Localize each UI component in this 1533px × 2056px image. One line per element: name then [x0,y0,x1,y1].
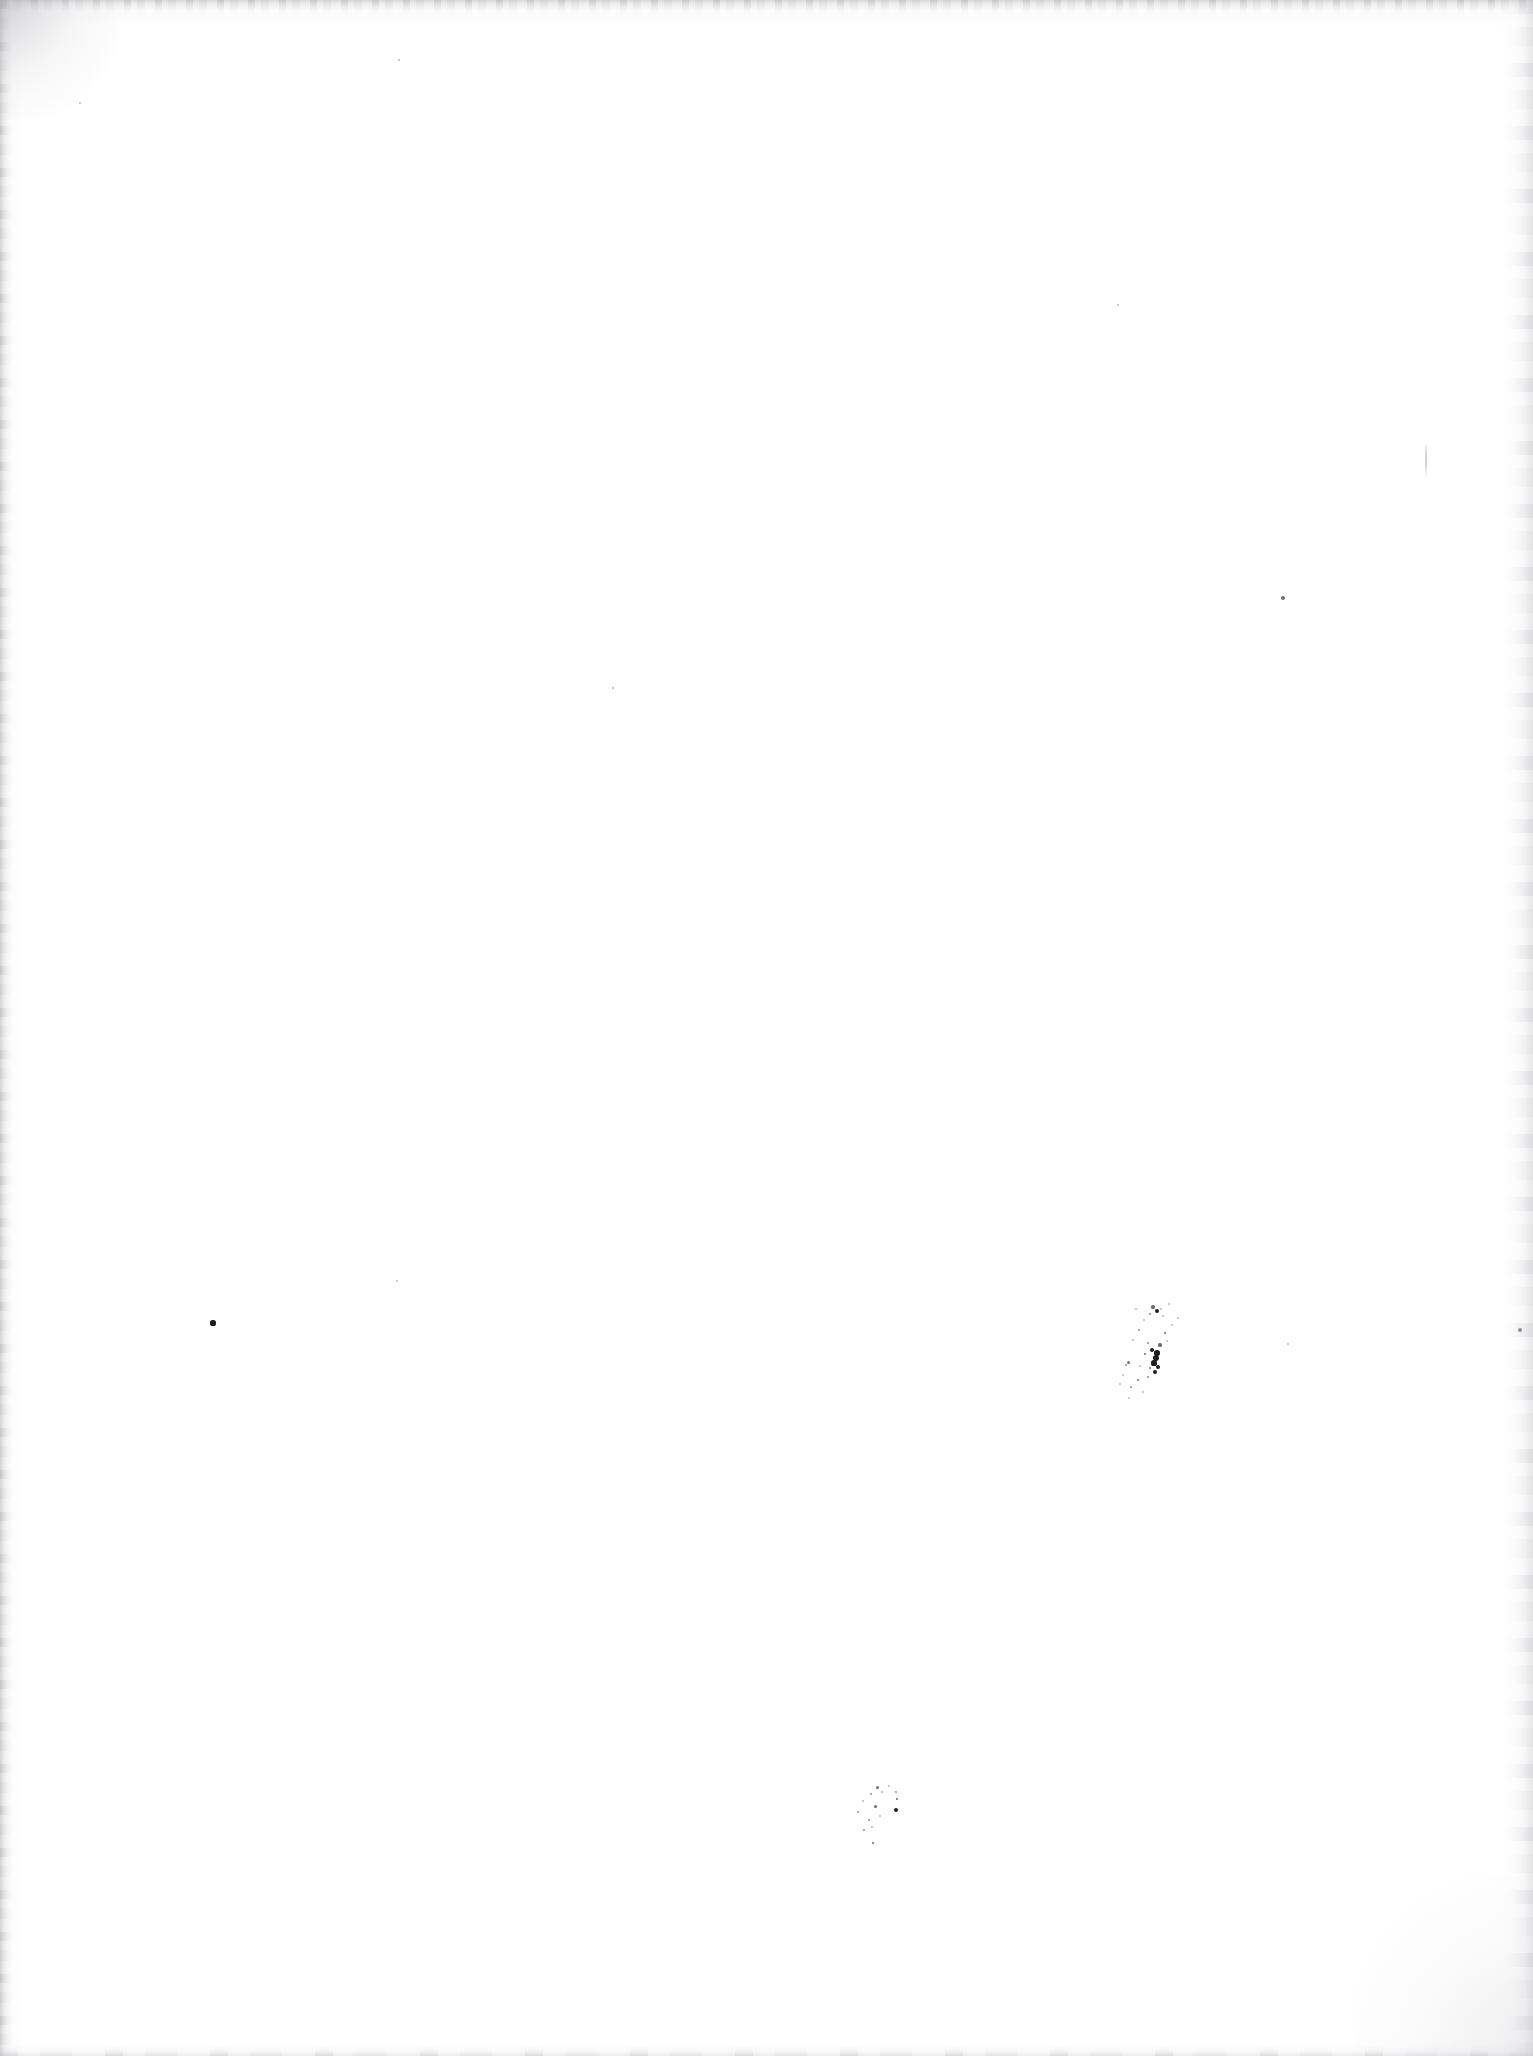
scan-corner-top-left [0,0,120,120]
scan-edge-bottom-mottle [0,2047,1533,2056]
speck-mid-left [79,102,81,104]
spatter-primary-dot [1166,1340,1168,1342]
speck-lower-center [396,1280,398,1282]
spatter-primary-dot [1138,1329,1140,1331]
spatter-secondary-dot [874,1805,877,1808]
scan-edge-right [1493,0,1533,2056]
spatter-secondary-dot [879,1815,881,1817]
speck-lower-right [1287,1343,1289,1345]
scan-edge-right-mottle [1503,0,1533,2056]
spatter-primary-dot [1119,1383,1121,1385]
spatter-primary-dot [1137,1379,1140,1382]
speck-upper-mid [1117,304,1119,306]
scan-edge-top [0,0,1533,26]
speck-upper-right [1281,596,1285,600]
spatter-primary-dot [1151,1305,1154,1308]
spatter-secondary-dot [888,1785,890,1787]
ink-dot-left [210,1320,215,1325]
spatter-secondary-dot [863,1829,865,1831]
scan-edge-left-ragged [0,0,13,2056]
spatter-secondary-dot [895,1791,898,1794]
spatter-primary-dot [1122,1374,1124,1376]
spatter-primary-dot [1139,1365,1141,1367]
spatter-secondary-dot [896,1798,899,1801]
spatter-primary-dot [1153,1370,1158,1375]
paper-surface [0,0,1533,2056]
spatter-primary-dot [1143,1319,1145,1321]
spatter-primary-dot [1130,1386,1133,1389]
spatter-primary-dot [1164,1332,1167,1335]
spatter-primary-dot [1162,1315,1164,1317]
spatter-secondary-dot [876,1786,879,1789]
spatter-secondary-dot [868,1819,871,1822]
spatter-primary-dot [1132,1339,1134,1341]
spatter-secondary-dot [881,1791,883,1793]
spatter-secondary-dot [862,1800,864,1802]
speck-right-edge [1518,1328,1522,1332]
spatter-primary-dot [1155,1309,1160,1314]
spatter-primary-dot [1171,1324,1173,1326]
spatter-primary-dot [1151,1360,1156,1365]
spatter-primary-dot [1147,1342,1150,1345]
spatter-primary-dot [1147,1376,1149,1378]
spatter-primary-dot [1149,1313,1152,1316]
spatter-primary-dot [1154,1350,1160,1356]
spatter-primary-dot [1125,1364,1127,1366]
spatter-primary-dot [1168,1303,1170,1305]
spatter-primary-dot [1156,1365,1160,1369]
spatter-secondary-dot [857,1811,860,1814]
spatter-primary-dot [1135,1308,1137,1310]
scan-edge-left [0,0,24,2056]
spatter-primary-dot [1177,1317,1179,1319]
scanned-page [0,0,1533,2056]
spatter-primary-dot [1127,1361,1130,1364]
speck-upper-left [398,59,400,61]
spatter-primary-dot [1160,1308,1162,1310]
scan-edge-bottom [0,2038,1533,2056]
spatter-secondary-dot [894,1808,898,1812]
speck-center [612,687,614,689]
scan-edge-top-ragged [0,0,1533,14]
spatter-primary-dot [1142,1391,1144,1393]
spatter-secondary-dot [870,1793,872,1795]
spatter-primary-dot [1153,1355,1159,1361]
spatter-primary-dot [1150,1348,1154,1352]
scan-crease-line [1425,443,1427,479]
spatter-secondary-dot [872,1842,875,1845]
spatter-primary-dot [1128,1397,1130,1399]
spatter-primary-dot [1158,1343,1161,1346]
spatter-primary-dot [1144,1353,1147,1356]
spatter-primary-dot [1149,1367,1152,1370]
scan-corner-bottom-right [1353,1876,1533,2056]
spatter-secondary-dot [871,1826,873,1828]
